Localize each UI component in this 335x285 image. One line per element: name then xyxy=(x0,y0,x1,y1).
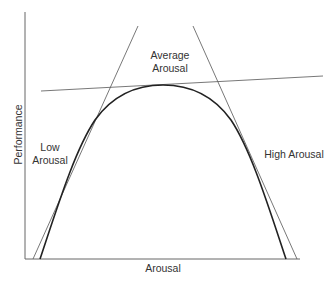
performance-curve xyxy=(40,85,286,259)
average-arousal-tangent xyxy=(41,76,323,91)
low-arousal-label: Low Arousal xyxy=(28,141,72,167)
high-label-line1: High Arousal xyxy=(258,148,330,161)
x-axis-label: Arousal xyxy=(133,262,193,275)
average-arousal-label: Average Arousal xyxy=(140,49,200,75)
high-arousal-label: High Arousal xyxy=(258,148,330,161)
average-label-line1: Average xyxy=(140,49,200,62)
high-arousal-tangent xyxy=(193,26,297,259)
low-label-line1: Low xyxy=(28,141,72,154)
average-label-line2: Arousal xyxy=(140,62,200,75)
low-label-line2: Arousal xyxy=(28,154,72,167)
y-axis-label: Performance xyxy=(12,95,25,175)
